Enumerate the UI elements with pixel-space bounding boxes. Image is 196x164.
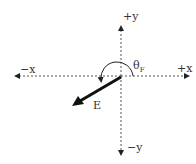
vector-diagram: +y −y −x +x E θF bbox=[0, 0, 196, 164]
vector-e-label: E bbox=[93, 99, 101, 112]
pos-y-label: +y bbox=[123, 10, 139, 23]
angle-arc-icon bbox=[101, 62, 133, 80]
neg-x-label: −x bbox=[20, 63, 36, 76]
pos-x-label: +x bbox=[177, 62, 193, 75]
neg-y-label: −y bbox=[127, 141, 143, 154]
angle-theta-label: θF bbox=[133, 59, 145, 74]
vector-e-shaft bbox=[80, 77, 121, 101]
theta-subscript: F bbox=[140, 66, 145, 74]
